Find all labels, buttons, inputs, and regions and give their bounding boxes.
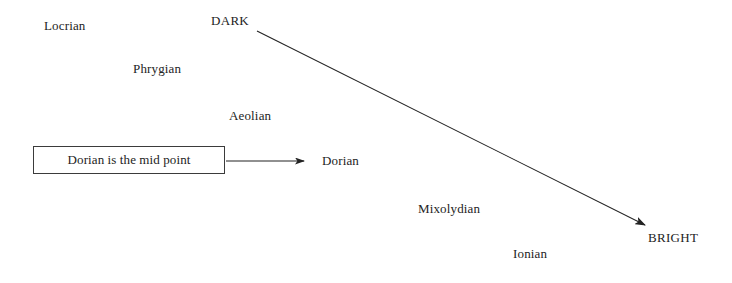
pole-label-dark: DARK bbox=[211, 14, 249, 28]
mode-label-dorian: Dorian bbox=[322, 154, 359, 168]
mode-label-aeolian: Aeolian bbox=[229, 109, 271, 123]
mode-label-mixolydian: Mixolydian bbox=[418, 202, 480, 216]
callout-box-text: Dorian is the mid point bbox=[68, 153, 191, 167]
callout-box-dorian-mid-point: Dorian is the mid point bbox=[33, 146, 225, 174]
pole-label-bright: BRIGHT bbox=[648, 231, 698, 245]
dark-to-bright-arrow bbox=[257, 31, 645, 225]
diagram-canvas: DARK BRIGHT Locrian Phrygian Aeolian Dor… bbox=[0, 0, 732, 283]
diagram-arrows-layer bbox=[0, 0, 732, 283]
mode-label-phrygian: Phrygian bbox=[133, 62, 181, 76]
mode-label-locrian: Locrian bbox=[44, 19, 85, 33]
mode-label-ionian: Ionian bbox=[513, 247, 547, 261]
